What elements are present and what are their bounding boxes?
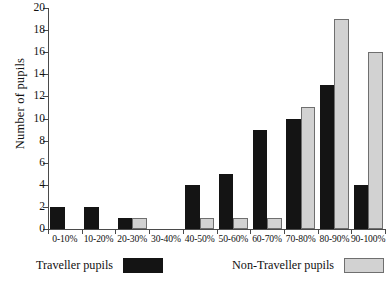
y-tick-label: 10 bbox=[34, 113, 46, 125]
chart-legend: Traveller pupils Non-Traveller pupils bbox=[0, 258, 391, 280]
x-tick-mark bbox=[82, 229, 83, 234]
x-tick-mark bbox=[183, 229, 184, 234]
bar-traveller bbox=[286, 119, 301, 230]
bar-non-traveller bbox=[233, 218, 248, 229]
bar-non-traveller bbox=[301, 107, 316, 229]
legend-swatch-non-traveller-icon bbox=[344, 258, 384, 273]
bar-traveller bbox=[118, 218, 133, 229]
x-tick-label: 70-80% bbox=[286, 233, 316, 244]
x-tick-label: 60-70% bbox=[252, 233, 282, 244]
bar-group bbox=[118, 8, 147, 229]
bar-traveller bbox=[354, 185, 369, 229]
bar-group bbox=[286, 8, 315, 229]
y-tick-label: 16 bbox=[34, 46, 46, 58]
y-tick-label: 18 bbox=[34, 24, 46, 36]
bar-group bbox=[320, 8, 349, 229]
x-tick-label: 20-30% bbox=[117, 233, 147, 244]
x-tick-label: 10-20% bbox=[84, 233, 114, 244]
x-tick-mark bbox=[217, 229, 218, 234]
legend-item-traveller: Traveller pupils bbox=[36, 258, 163, 273]
y-tick-label: 12 bbox=[34, 91, 46, 103]
x-tick-mark bbox=[115, 229, 116, 234]
bar-traveller bbox=[84, 207, 99, 229]
x-tick-label: 0-10% bbox=[52, 233, 77, 244]
y-tick-label: 2 bbox=[39, 201, 45, 213]
bar-traveller bbox=[219, 174, 234, 229]
bar-chart: Number of pupils 02468101214161820 0-10%… bbox=[0, 0, 391, 282]
legend-swatch-traveller-icon bbox=[123, 258, 163, 273]
legend-item-non-traveller: Non-Traveller pupils bbox=[232, 258, 384, 273]
y-axis-title: Number of pupils bbox=[13, 34, 28, 174]
bar-non-traveller bbox=[334, 19, 349, 229]
bar-group bbox=[151, 8, 180, 229]
y-tick-label: 4 bbox=[39, 179, 45, 191]
legend-label-non-traveller: Non-Traveller pupils bbox=[232, 258, 334, 273]
y-axis-line bbox=[48, 8, 49, 229]
bar-group bbox=[219, 8, 248, 229]
bar-non-traveller bbox=[132, 218, 147, 229]
bar-group bbox=[354, 8, 383, 229]
y-tick-label: 14 bbox=[34, 69, 46, 81]
bar-non-traveller bbox=[200, 218, 215, 229]
x-tick-mark bbox=[250, 229, 251, 234]
x-tick-label: 80-90% bbox=[320, 233, 350, 244]
x-tick-mark bbox=[318, 229, 319, 234]
y-tick-label: 6 bbox=[39, 157, 45, 169]
bar-non-traveller bbox=[267, 218, 282, 229]
bar-traveller bbox=[185, 185, 200, 229]
y-tick-label: 0 bbox=[39, 223, 45, 235]
bar-traveller bbox=[50, 207, 65, 229]
x-tick-label: 50-60% bbox=[218, 233, 248, 244]
bar-group bbox=[84, 8, 113, 229]
bar-group bbox=[253, 8, 282, 229]
legend-label-traveller: Traveller pupils bbox=[36, 258, 113, 273]
y-tick-label: 8 bbox=[39, 135, 45, 147]
bar-traveller bbox=[320, 85, 335, 229]
bar-traveller bbox=[253, 130, 268, 229]
x-tick-mark bbox=[149, 229, 150, 234]
y-tick-label: 20 bbox=[34, 2, 46, 14]
bar-group bbox=[185, 8, 214, 229]
plot-area: 02468101214161820 bbox=[48, 8, 385, 229]
bar-group bbox=[50, 8, 79, 229]
x-tick-mark bbox=[284, 229, 285, 234]
bar-non-traveller bbox=[368, 52, 383, 229]
x-tick-label: 40-50% bbox=[185, 233, 215, 244]
x-tick-label: 90-100% bbox=[351, 233, 385, 244]
x-tick-label: 30-40% bbox=[151, 233, 181, 244]
x-tick-mark bbox=[48, 229, 49, 234]
